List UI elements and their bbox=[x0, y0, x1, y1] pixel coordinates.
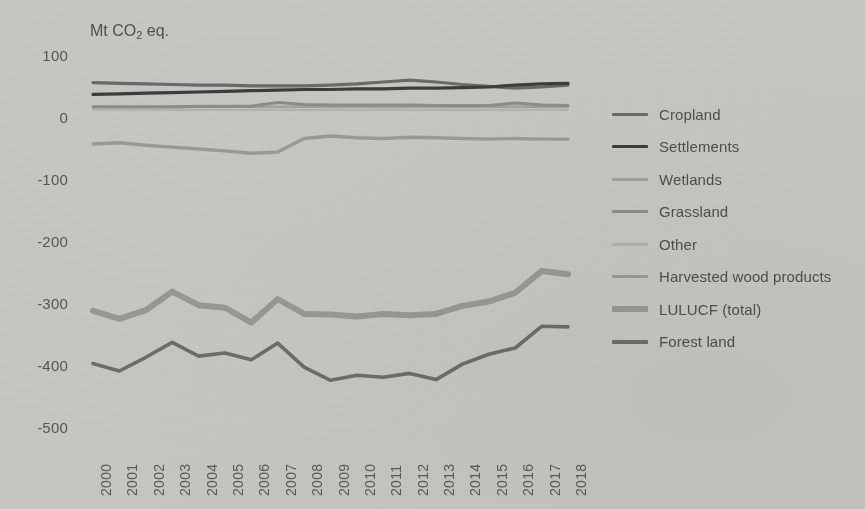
legend-label: Settlements bbox=[659, 138, 739, 155]
legend-item-wetlands[interactable]: Wetlands bbox=[612, 163, 831, 196]
legend-item-harvested-wood-products[interactable]: Harvested wood products bbox=[612, 261, 831, 294]
legend-swatch-icon bbox=[612, 340, 648, 344]
legend-item-other[interactable]: Other bbox=[612, 228, 831, 261]
legend-swatch-icon bbox=[612, 178, 648, 181]
series-line-grassland bbox=[93, 103, 568, 107]
legend-label: Grassland bbox=[659, 203, 728, 220]
legend-swatch-icon bbox=[612, 113, 648, 116]
legend-label: Forest land bbox=[659, 333, 735, 350]
legend-item-grassland[interactable]: Grassland bbox=[612, 196, 831, 229]
legend-swatch-icon bbox=[612, 145, 648, 148]
legend-item-forest-land[interactable]: Forest land bbox=[612, 326, 831, 359]
legend-swatch-icon bbox=[612, 243, 648, 246]
legend-label: LULUCF (total) bbox=[659, 301, 761, 318]
series-line-harvested-wood-products bbox=[93, 136, 568, 153]
legend-label: Other bbox=[659, 236, 697, 253]
chart-container: Mt CO2 eq. 1000-100-200-300-400-500 2000… bbox=[0, 0, 865, 509]
legend-swatch-icon bbox=[612, 306, 648, 312]
legend-label: Wetlands bbox=[659, 171, 722, 188]
legend-item-cropland[interactable]: Cropland bbox=[612, 98, 831, 131]
legend-swatch-icon bbox=[612, 275, 648, 278]
series-line-forest-land bbox=[93, 326, 568, 380]
legend-item-lulucf-total[interactable]: LULUCF (total) bbox=[612, 293, 831, 326]
series-line-lulucf-total bbox=[93, 271, 568, 323]
legend-label: Cropland bbox=[659, 106, 721, 123]
legend-label: Harvested wood products bbox=[659, 268, 831, 285]
legend-item-settlements[interactable]: Settlements bbox=[612, 131, 831, 164]
legend-swatch-icon bbox=[612, 210, 648, 213]
legend: CroplandSettlementsWetlandsGrasslandOthe… bbox=[612, 98, 831, 358]
